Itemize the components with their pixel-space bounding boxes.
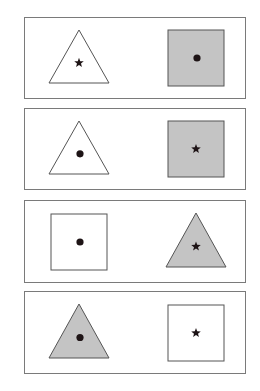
- diagram-panel-1: [24, 17, 246, 99]
- triangle-icon: [166, 213, 226, 267]
- triangle-icon: [49, 304, 109, 358]
- unshaded-square-left: [51, 214, 107, 270]
- triangle-icon: [49, 121, 109, 174]
- shaded-square-right: [168, 121, 224, 177]
- shaded-triangle-left: [49, 304, 109, 358]
- diagram-panel-3: [24, 200, 246, 283]
- dot-icon: [76, 334, 83, 341]
- panel-shapes: [25, 109, 247, 191]
- dot-icon: [193, 54, 200, 61]
- dot-icon: [76, 238, 83, 245]
- panel-shapes: [25, 18, 247, 100]
- diagram-panel-2: [24, 108, 246, 190]
- dot-icon: [76, 150, 83, 157]
- unshaded-triangle-left: [49, 121, 109, 174]
- diagram-panel-4: [24, 291, 246, 374]
- shaded-triangle-right: [166, 213, 226, 267]
- unshaded-square-right: [168, 305, 224, 361]
- panel-shapes: [25, 292, 247, 375]
- shaded-square-right: [168, 30, 224, 86]
- panel-shapes: [25, 201, 247, 284]
- unshaded-triangle-left: [49, 30, 109, 83]
- triangle-icon: [49, 30, 109, 83]
